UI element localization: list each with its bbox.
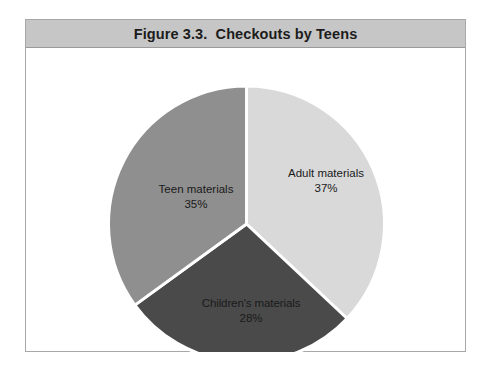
figure-caption-bar: Figure 3.3. Checkouts by Teens bbox=[26, 20, 465, 48]
figure-caption-text: Figure 3.3. Checkouts by Teens bbox=[134, 26, 358, 42]
pie-chart bbox=[26, 49, 465, 352]
pie-slice-group bbox=[109, 86, 385, 352]
chart-plot-area: Adult materials 37% Teen materials 35% C… bbox=[26, 49, 465, 352]
figure-container: Figure 3.3. Checkouts by Teens Adult mat… bbox=[25, 19, 466, 352]
